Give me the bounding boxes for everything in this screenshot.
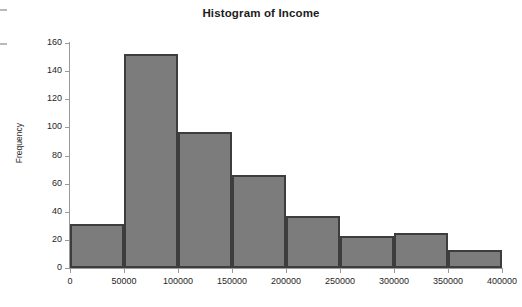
histogram-bar xyxy=(178,132,232,268)
y-tick-label: 140 xyxy=(22,66,62,75)
x-tick-mark xyxy=(448,269,449,273)
x-tick-mark xyxy=(394,269,395,273)
y-tick-label-wrap: 80 xyxy=(20,151,62,160)
x-tick-mark xyxy=(286,269,287,273)
histogram-bar xyxy=(286,216,340,268)
x-tick-mark xyxy=(340,269,341,273)
histogram-bar xyxy=(70,224,124,268)
histogram-bar xyxy=(232,175,286,268)
y-tick-label-wrap: 160 xyxy=(20,38,62,47)
histogram-bar xyxy=(124,54,178,268)
y-tick-label: 0 xyxy=(22,263,62,272)
x-tick-label: 400000 xyxy=(466,276,522,286)
histogram-bar xyxy=(340,236,394,268)
histogram-bar xyxy=(448,250,502,268)
y-tick-label-wrap: 120 xyxy=(20,94,62,103)
y-tick-label-wrap: 100 xyxy=(20,122,62,131)
y-tick-label: 100 xyxy=(22,122,62,131)
y-tick-label: 160 xyxy=(22,38,62,47)
y-tick-label-wrap: 40 xyxy=(20,207,62,216)
y-tick-label: 60 xyxy=(22,179,62,188)
page-edge-artifact xyxy=(0,43,7,45)
x-tick-mark xyxy=(178,269,179,273)
histogram-chart: Histogram of Income Frequency 0204060801… xyxy=(0,0,522,307)
x-tick-mark xyxy=(124,269,125,273)
y-axis-title: Frequency xyxy=(14,43,24,123)
y-tick-label-wrap: 140 xyxy=(20,66,62,75)
y-tick-label-wrap: 0 xyxy=(20,263,62,272)
x-tick-mark xyxy=(232,269,233,273)
histogram-bar xyxy=(394,233,448,268)
y-tick-label: 20 xyxy=(22,235,62,244)
x-tick-mark xyxy=(70,269,71,273)
y-tick-label: 40 xyxy=(22,207,62,216)
y-tick-label: 120 xyxy=(22,94,62,103)
y-tick-label: 80 xyxy=(22,151,62,160)
chart-title: Histogram of Income xyxy=(0,7,522,19)
y-tick-label-wrap: 60 xyxy=(20,179,62,188)
y-tick-label-wrap: 20 xyxy=(20,235,62,244)
x-tick-mark xyxy=(502,269,503,273)
bars-layer xyxy=(70,43,502,268)
